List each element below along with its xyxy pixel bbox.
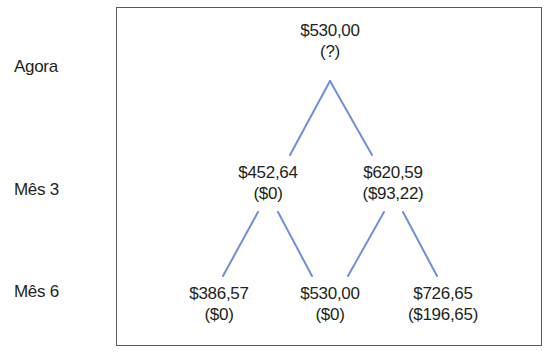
node-price: $726,65 [383,283,503,304]
edge-m3-up-to-m6-mid [348,212,384,276]
edge-m3-down-to-m6-mid [278,212,312,276]
node-payoff: ($0) [270,304,390,325]
edge-m3-down-to-m6-downdown [223,212,258,276]
edge-root-to-m3-up [330,81,372,155]
node-price: $452,64 [208,162,328,183]
node-payoff: (?) [270,41,390,62]
node-price: $530,00 [270,283,390,304]
node-month6-mid: $530,00 ($0) [270,283,390,325]
edge-root-to-m3-down [290,81,330,155]
node-root: $530,00 (?) [270,20,390,62]
node-payoff: ($196,65) [383,304,503,325]
node-month6-upup: $726,65 ($196,65) [383,283,503,325]
node-payoff: ($93,22) [333,183,453,204]
node-month6-downdown: $386,57 ($0) [159,283,279,325]
node-price: $530,00 [270,20,390,41]
node-month3-down: $452,64 ($0) [208,162,328,204]
node-payoff: ($0) [159,304,279,325]
node-month3-up: $620,59 ($93,22) [333,162,453,204]
node-payoff: ($0) [208,183,328,204]
edge-m3-up-to-m6-upup [403,212,437,276]
node-price: $620,59 [333,162,453,183]
node-price: $386,57 [159,283,279,304]
